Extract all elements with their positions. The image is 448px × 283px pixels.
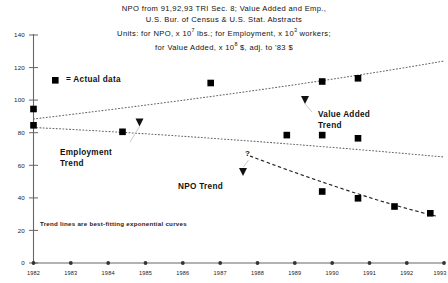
npo-annotation: NPO Trend — [178, 182, 223, 193]
npo-trendline — [250, 156, 436, 216]
value-added-leader-arrow — [301, 96, 309, 104]
data-point — [30, 106, 37, 113]
plot-area: 140 120 100 80 60 40 20 0 1982 1983 — [0, 0, 448, 283]
y-tick-label-100: 100 — [14, 96, 25, 103]
npo-leader-arrow — [239, 168, 247, 176]
x-tick-label-1983: 1983 — [64, 270, 77, 276]
npo-label: NPO Trend — [178, 182, 223, 193]
uncertainty-question-mark: ? — [245, 149, 250, 158]
value-added-annotation: Value Added Trend — [318, 110, 370, 131]
y-tick-label-140: 140 — [14, 31, 25, 38]
data-point — [119, 129, 126, 136]
chart-root: NPO from 91,92,93 TRI Sec. 8; Value Adde… — [0, 0, 448, 283]
data-point — [355, 135, 362, 142]
x-tick-label-1984: 1984 — [102, 270, 115, 276]
data-point — [355, 195, 362, 202]
data-point — [427, 210, 434, 217]
y-tick-label-20: 20 — [18, 227, 26, 234]
data-point — [207, 80, 214, 87]
x-tick-label-1990: 1990 — [326, 270, 339, 276]
x-tick-label-1993: 1993 — [433, 270, 446, 276]
y-tick-label-0: 0 — [21, 259, 25, 266]
leader-arrows — [136, 96, 310, 176]
x-tick-label-1991: 1991 — [363, 270, 376, 276]
legend-marker-icon — [52, 77, 59, 84]
value-added-trendline — [34, 61, 445, 119]
value-added-label-line2: Trend — [318, 121, 370, 132]
x-tick-label-1989: 1989 — [288, 270, 301, 276]
y-tick-labels: 140 120 100 80 60 40 20 0 — [14, 31, 25, 266]
y-tick-label-80: 80 — [18, 129, 26, 136]
y-tick-label-60: 60 — [18, 162, 26, 169]
x-tick-label-1982: 1982 — [27, 270, 40, 276]
x-tick-label-1987: 1987 — [214, 270, 227, 276]
data-point — [319, 132, 326, 139]
data-point — [284, 132, 291, 139]
x-tick-label-1988: 1988 — [251, 270, 264, 276]
y-tick-label-120: 120 — [14, 64, 25, 71]
x-tick-label-1986: 1986 — [176, 270, 189, 276]
employment-markers — [30, 122, 361, 142]
employment-annotation: Employment Trend — [60, 148, 112, 169]
x-tick-label-1985: 1985 — [139, 270, 152, 276]
legend-label: = Actual data — [66, 75, 121, 84]
employment-leader-arrow — [136, 119, 144, 127]
y-tick-label-40: 40 — [18, 194, 26, 201]
npo-markers — [319, 188, 434, 216]
x-tick-label-1992: 1992 — [400, 270, 413, 276]
data-point — [319, 188, 326, 195]
data-point — [355, 75, 362, 82]
data-point — [30, 122, 37, 129]
employment-label-line2: Trend — [60, 159, 112, 170]
data-point — [319, 78, 326, 85]
x-tick-labels: 1982 1983 1984 1985 1986 1987 1988 1989 … — [27, 270, 447, 276]
employment-label-line1: Employment — [60, 148, 112, 159]
value-added-label-line1: Value Added — [318, 110, 370, 121]
data-point — [391, 203, 398, 210]
footnote-text: Trend lines are best-fitting exponential… — [40, 220, 187, 227]
